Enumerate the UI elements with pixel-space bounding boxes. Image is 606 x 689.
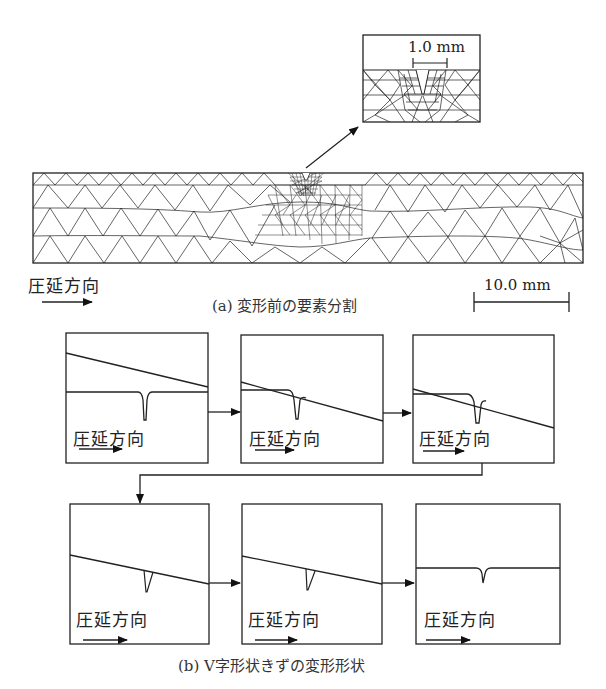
- row-connector-arrow: [140, 463, 482, 503]
- rolling-direction-label: 圧延方向: [28, 272, 100, 297]
- panel-2-label: 圧延方向: [249, 425, 321, 450]
- caption-b: (b) V字形状きずの変形形状: [178, 654, 365, 675]
- panel-3-label: 圧延方向: [419, 425, 491, 450]
- scale-bar-10mm: [474, 292, 569, 312]
- zoom-arrow: [306, 127, 358, 168]
- diagram-canvas: [0, 0, 606, 689]
- fe-mesh: [33, 173, 583, 263]
- panel-6-label: 圧延方向: [424, 606, 496, 631]
- inset-scale-label: 1.0 mm: [408, 38, 465, 56]
- panel-5-label: 圧延方向: [248, 606, 320, 631]
- scale-bar-label: 10.0 mm: [484, 276, 551, 294]
- panel-4-label: 圧延方向: [76, 606, 148, 631]
- caption-a: (a) 変形前の要素分割: [212, 294, 357, 315]
- panel-1-label: 圧延方向: [73, 425, 145, 450]
